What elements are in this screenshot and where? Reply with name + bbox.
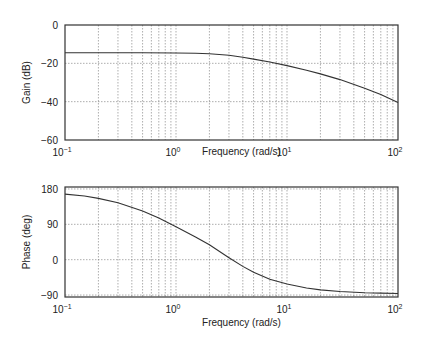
y-tick-label: −20 bbox=[41, 58, 58, 69]
y-tick-label: 0 bbox=[52, 20, 58, 31]
x-tick-label: 102 bbox=[387, 303, 402, 315]
gain-plot: 0−20−40−6010−1100101102Frequency (rad/s)… bbox=[21, 20, 403, 158]
y-tick-label: 180 bbox=[41, 184, 58, 195]
x-tick-label: 10−1 bbox=[52, 146, 71, 158]
y-tick-label: −90 bbox=[41, 290, 58, 301]
phase-curve bbox=[65, 194, 398, 293]
y-tick-label: −60 bbox=[41, 135, 58, 146]
y-tick-label: 0 bbox=[52, 255, 58, 266]
plot-frame bbox=[65, 187, 398, 297]
gain-curve bbox=[65, 53, 398, 103]
x-tick-label: 100 bbox=[165, 146, 180, 158]
phase-plot: 180900−9010−1100101102Frequency (rad/s)P… bbox=[21, 184, 403, 328]
x-tick-label: 10−1 bbox=[52, 303, 71, 315]
y-tick-label: 90 bbox=[47, 219, 59, 230]
y-axis-label: Gain (dB) bbox=[21, 61, 32, 104]
x-axis-label: Frequency (rad/s) bbox=[202, 146, 281, 157]
x-tick-label: 101 bbox=[276, 303, 291, 315]
x-tick-label: 102 bbox=[387, 146, 402, 158]
x-axis-label: Frequency (rad/s) bbox=[202, 317, 281, 328]
bode-plot: 0−20−40−6010−1100101102Frequency (rad/s)… bbox=[0, 0, 425, 346]
y-tick-label: −40 bbox=[41, 97, 58, 108]
x-tick-label: 100 bbox=[165, 303, 180, 315]
y-axis-label: Phase (deg) bbox=[21, 215, 32, 269]
